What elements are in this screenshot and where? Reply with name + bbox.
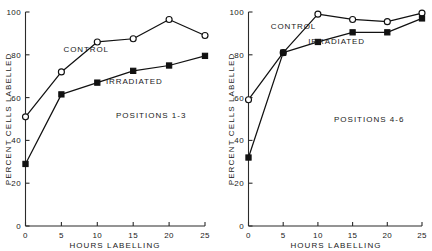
x-ticks-left <box>26 222 206 226</box>
data-point-control-right-0 <box>246 97 252 103</box>
data-point-irradiated-left-10 <box>95 80 100 85</box>
data-line-irradiated-left <box>26 56 206 164</box>
chart-svg-right: 020406080100 0510152025 CONTROL IRRADIAT… <box>216 0 432 251</box>
x-tick-label-15: 15 <box>348 231 358 240</box>
x-tick-label-10: 10 <box>92 231 102 240</box>
panel-annotation-right: POSITIONS 4-6 <box>334 115 404 124</box>
data-point-irradiated-left-5 <box>59 92 64 97</box>
y-tick-label-100: 100 <box>229 8 244 17</box>
x-ticks-right <box>249 222 423 226</box>
data-point-control-left-15 <box>130 36 136 42</box>
data-point-irradiated-left-15 <box>131 68 136 73</box>
data-point-control-right-10 <box>315 11 321 17</box>
x-axis-title-left: HOURS LABELLING <box>69 241 160 250</box>
figure-two-panel-line-charts: 020406080100 0510152025 CONTROL IRRADIAT… <box>0 0 432 251</box>
series-group-left <box>23 16 209 166</box>
data-point-control-left-5 <box>58 69 64 75</box>
x-axis-title-right: HOURS LABELLING <box>290 241 381 250</box>
chart-panel-positions-4-6: 020406080100 0510152025 CONTROL IRRADIAT… <box>216 0 432 251</box>
data-point-irradiated-right-25 <box>419 16 424 21</box>
data-line-control-left <box>26 19 206 116</box>
series-label-irradiated-right: IRRADIATED <box>308 37 365 46</box>
x-tick-label-0: 0 <box>23 231 28 240</box>
x-tick-label-15: 15 <box>128 231 138 240</box>
series-label-control-right: CONTROL <box>271 22 316 31</box>
y-axis-title-left: PERCENT CELLS LABELLED <box>4 53 13 186</box>
series-group-right <box>246 10 426 160</box>
data-point-control-left-20 <box>166 16 172 22</box>
x-tick-label-0: 0 <box>246 231 251 240</box>
x-tick-label-10: 10 <box>313 231 323 240</box>
x-tick-labels-left: 0510152025 <box>23 231 210 240</box>
x-tick-label-20: 20 <box>164 231 174 240</box>
chart-svg-left: 020406080100 0510152025 CONTROL IRRADIAT… <box>0 0 216 251</box>
y-tick-label-100: 100 <box>6 8 21 17</box>
data-point-irradiated-left-20 <box>167 63 172 68</box>
data-point-irradiated-right-5 <box>281 50 286 55</box>
data-point-irradiated-right-0 <box>246 155 251 160</box>
x-tick-labels-right: 0510152025 <box>246 231 427 240</box>
x-tick-label-5: 5 <box>281 231 286 240</box>
data-point-control-right-25 <box>419 10 425 16</box>
x-tick-label-20: 20 <box>382 231 392 240</box>
x-tick-label-5: 5 <box>59 231 64 240</box>
y-axis-title-right: PERCENT CELLS LABELLED <box>227 53 236 186</box>
y-ticks-right <box>249 12 253 226</box>
data-point-irradiated-right-15 <box>350 30 355 35</box>
y-tick-label-0: 0 <box>239 222 244 231</box>
chart-panel-positions-1-3: 020406080100 0510152025 CONTROL IRRADIAT… <box>0 0 216 251</box>
data-point-irradiated-left-0 <box>23 161 28 166</box>
data-point-irradiated-left-25 <box>202 53 207 58</box>
data-point-control-left-0 <box>23 114 29 120</box>
x-tick-label-25: 25 <box>417 231 427 240</box>
y-tick-label-0: 0 <box>16 222 21 231</box>
x-tick-label-25: 25 <box>200 231 210 240</box>
data-point-control-right-20 <box>384 19 390 25</box>
data-point-irradiated-right-20 <box>385 30 390 35</box>
data-point-control-right-15 <box>350 16 356 22</box>
data-point-control-left-25 <box>202 33 208 39</box>
panel-annotation-left: POSITIONS 1-3 <box>116 111 186 120</box>
series-label-control-left: CONTROL <box>64 45 109 54</box>
series-label-irradiated-left: IRRADIATED <box>106 77 163 86</box>
